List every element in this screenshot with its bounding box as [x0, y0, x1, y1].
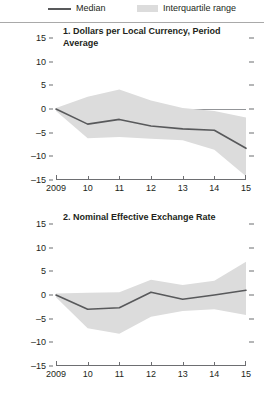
panel-1-x-tick-mark: [119, 176, 120, 180]
legend-label-median: Median: [76, 3, 106, 14]
panel-1-y-tick-mark: [49, 109, 53, 110]
panel-2-y-tick-label: 15: [36, 219, 46, 229]
panel-1-x-tick-label: 14: [209, 183, 219, 193]
panel-2-y-tick-mark-right: [249, 342, 254, 343]
panel-2-y-tick-mark: [49, 342, 53, 343]
panel-2-y-tick-label: –15: [31, 361, 46, 371]
panel-1-x-tick-mark: [88, 176, 89, 180]
panel-2-x-tick-label: 10: [83, 369, 93, 379]
panel-2-y-tick-mark: [49, 366, 53, 367]
panel-2-title: 2. Nominal Effective Exchange Rate: [63, 212, 243, 224]
panel-1-x-tick-mark: [151, 176, 152, 180]
panel-2-plot-area: [56, 224, 246, 366]
panel-2-y-tick-label: 0: [41, 290, 46, 300]
panel-2-y-tick-mark-right: [249, 247, 254, 248]
panel-2-y-tick-mark: [49, 271, 53, 272]
panel-1-x-tick-mark: [214, 176, 215, 180]
legend-item-median: Median: [48, 3, 106, 14]
panel-1-y-tick-label: 15: [36, 33, 46, 43]
panel-2-y-tick-mark: [49, 295, 53, 296]
panel-2-y-tick-mark-right: [249, 271, 254, 272]
panel-2-y-tick-mark-right: [249, 224, 254, 225]
panel-1-y-tick-mark-right: [249, 85, 254, 86]
panel-2-y-tick-mark-right: [249, 318, 254, 319]
panel-1-x-tick-label: 12: [146, 183, 156, 193]
panel-2-y-tick-label: –10: [31, 337, 46, 347]
panel-2-x-tick-mark: [119, 362, 120, 366]
panel-1-y-axis-cap-right: [245, 175, 246, 180]
panel-2-x-tick-mark: [88, 362, 89, 366]
panel-2-x-tick-mark: [183, 362, 184, 366]
legend-item-interquartile-range: Interquartile range: [137, 3, 236, 14]
panel-1-series: [56, 38, 246, 180]
panel-2-x-tick-label: 2009: [46, 369, 66, 379]
panel-1-y-tick-label: 10: [36, 57, 46, 67]
panel-1-y-tick-mark: [49, 132, 53, 133]
panel-1-y-tick-label: –10: [31, 151, 46, 161]
panel-2-y-tick-label: –5: [36, 314, 46, 324]
panel-1-y-tick-label: –15: [31, 175, 46, 185]
panel-2-x-tick-mark: [214, 362, 215, 366]
panel-1-y-tick-mark: [49, 156, 53, 157]
panel-1-x-tick-mark: [183, 176, 184, 180]
panel-2-y-tick-label: 5: [41, 266, 46, 276]
panel-2-y-tick-mark-right: [249, 295, 254, 296]
panel-1-y-tick-mark-right: [249, 109, 254, 110]
panel-1-x-tick-label: 11: [115, 183, 124, 193]
panel-1-x-tick-label: 13: [178, 183, 188, 193]
panel-2-interquartile-band: [56, 262, 246, 334]
chart-panel-1: 1. Dollars per Local Currency, Period Av…: [0, 26, 264, 206]
panel-2-x-tick-label: 14: [209, 369, 219, 379]
panel-1-y-tick-mark-right: [249, 38, 254, 39]
panel-1-x-tick-label: 10: [83, 183, 93, 193]
median-line-swatch-icon: [48, 8, 71, 10]
panel-1-y-tick-mark: [49, 38, 53, 39]
panel-1-y-tick-mark-right: [249, 61, 254, 62]
panel-1-y-tick-label: 5: [41, 80, 46, 90]
panel-2-x-tick-label: 13: [178, 369, 188, 379]
panel-2-x-tick-label: 15: [241, 369, 251, 379]
panel-1-y-tick-mark-right: [249, 132, 254, 133]
panel-2-y-tick-mark: [49, 224, 53, 225]
interquartile-band-swatch-icon: [137, 5, 158, 12]
panel-2-y-tick-label: 10: [36, 243, 46, 253]
panel-1-y-tick-mark: [49, 85, 53, 86]
panel-1-x-tick-label: 15: [241, 183, 251, 193]
legend-label-interquartile-range: Interquartile range: [163, 3, 236, 14]
panel-1-y-tick-label: –5: [36, 128, 46, 138]
panel-1-plot-area: [56, 38, 246, 180]
panel-1-y-axis-cap-left: [56, 175, 57, 180]
panel-1-x-tick-label: 2009: [46, 183, 66, 193]
chart-panel-2: 2. Nominal Effective Exchange Rate 15105…: [0, 212, 264, 398]
figure: Median Interquartile range 1. Dollars pe…: [0, 0, 264, 404]
panel-1-y-tick-mark-right: [249, 156, 254, 157]
panel-1-y-tick-mark: [49, 61, 53, 62]
panel-2-series: [56, 224, 246, 366]
panel-2-y-axis-cap-right: [245, 361, 246, 366]
panel-1-y-tick-mark: [49, 180, 53, 181]
panel-1-y-tick-label: 0: [41, 104, 46, 114]
chart-legend: Median Interquartile range: [0, 0, 264, 23]
panel-2-x-tick-label: 11: [115, 369, 124, 379]
panel-2-y-tick-mark: [49, 318, 53, 319]
panel-2-y-axis-cap-left: [56, 361, 57, 366]
panel-2-y-tick-mark: [49, 247, 53, 248]
panel-2-x-tick-mark: [151, 362, 152, 366]
panel-2-x-tick-label: 12: [146, 369, 156, 379]
